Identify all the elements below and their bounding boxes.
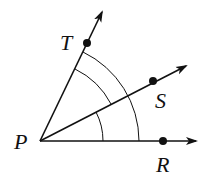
angle-diagram: P R S T [0, 0, 205, 184]
angle-RPS-arc [96, 112, 103, 141]
angle-SPT-arc [75, 69, 111, 104]
point-S [149, 77, 157, 85]
label-R: R [155, 152, 170, 177]
label-P: P [13, 129, 27, 154]
label-S: S [155, 88, 166, 113]
angle-RPT-arc [83, 52, 139, 141]
point-T [83, 39, 91, 47]
label-T: T [60, 30, 74, 55]
point-R [159, 137, 167, 145]
